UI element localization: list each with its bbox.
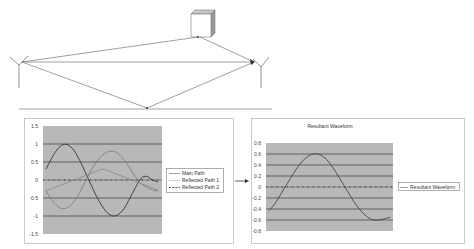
building-path-in (22, 37, 198, 62)
chart-paths: 1.510.50-0.5-1-1.5 Main Path Reflected P… (25, 119, 234, 244)
legend: Main Path Reflected Path 1 Reflected Pat… (167, 169, 224, 193)
ground-path-in (22, 62, 147, 108)
y-tick-label: -0.5 (29, 195, 38, 201)
building-reflector-icon (191, 10, 215, 37)
y-tick-label: -1 (34, 213, 39, 219)
figure: 1.510.50-0.5-1-1.5 Main Path Reflected P… (0, 0, 474, 249)
y-tick-label: 0 (35, 177, 38, 183)
legend: Resultant Waveform (399, 183, 460, 191)
y-tick-label: 0.2 (254, 173, 261, 179)
transmitter-antenna-icon (10, 56, 28, 88)
ground-path-out (147, 62, 254, 108)
legend-main-path: Main Path (182, 170, 205, 176)
receiver-antenna-icon (253, 57, 269, 88)
propagation-paths (22, 37, 254, 108)
y-tick-label: 0.4 (254, 162, 261, 168)
chart-resultant: Resultant Waveform 0.80.60.40.20-0.2-0.4… (252, 119, 465, 244)
y-tick-label: -0.2 (252, 195, 261, 201)
right-arrow-icon (235, 179, 249, 183)
y-tick-label: -1.5 (29, 231, 38, 237)
y-tick-label: -0.4 (252, 206, 261, 212)
y-tick-label: 0.8 (254, 140, 261, 146)
building-path-out (200, 37, 254, 62)
y-tick-label: 1.5 (31, 123, 38, 129)
legend-resultant-waveform: Resultant Waveform (410, 184, 455, 190)
y-tick-label: 0.5 (31, 159, 38, 165)
y-tick-label: 0 (258, 184, 261, 190)
legend-reflected-path-2: Reflected Path 2 (182, 184, 219, 190)
y-tick-label: -0.6 (252, 217, 261, 223)
y-tick-label: -0.8 (252, 228, 261, 234)
legend-reflected-path-1: Reflected Path 1 (182, 177, 219, 183)
multipath-diagram (10, 10, 272, 109)
y-tick-label: 1 (35, 141, 38, 147)
y-tick-label: 0.6 (254, 151, 261, 157)
chart-title: Resultant Waveform (307, 123, 352, 129)
